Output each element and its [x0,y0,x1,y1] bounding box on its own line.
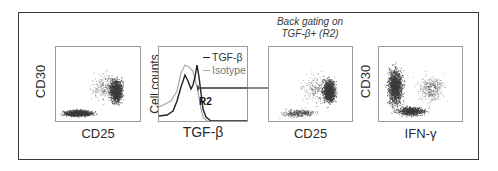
panel1-dotplot [55,46,141,122]
panel3-title-line2: TGF-β+ (R2) [262,28,358,40]
panel4-xlabel: IFN-γ [378,126,463,141]
panel1-ylabel: CD30 [33,62,48,102]
panel2-xlabel: TGF-β [158,124,248,140]
panel3-dotplot [268,46,353,122]
panel3-title: Back gating on TGF-β+ (R2) [262,16,358,40]
legend-item-tgfb: TGF-β [203,51,246,64]
panel3-xlabel: CD25 [268,126,353,141]
legend-swatch-gray [203,70,210,71]
panel3-title-line1: Back gating on [262,16,358,28]
gate-label-r2: R2 [199,96,212,107]
panel4-dotplot [378,46,463,122]
panel1-xlabel: CD25 [55,126,141,141]
legend-label: Isotype [212,64,246,77]
panel4-ylabel: CD30 [358,62,373,102]
legend-swatch-black [203,57,210,58]
legend-label: TGF-β [212,51,243,64]
legend-item-isotype: Isotype [203,64,246,77]
panel2-legend: TGF-β Isotype [203,51,246,77]
